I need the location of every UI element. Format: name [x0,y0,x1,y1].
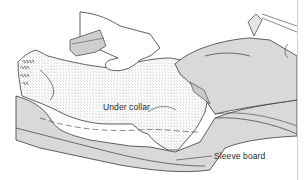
illustration-canvas: Under collar Sleeve board [0,0,306,180]
under-collar-label: Under collar [103,103,150,112]
sleeve-board-label: Sleeve board [214,152,265,161]
frame-edge-divider [297,0,298,180]
